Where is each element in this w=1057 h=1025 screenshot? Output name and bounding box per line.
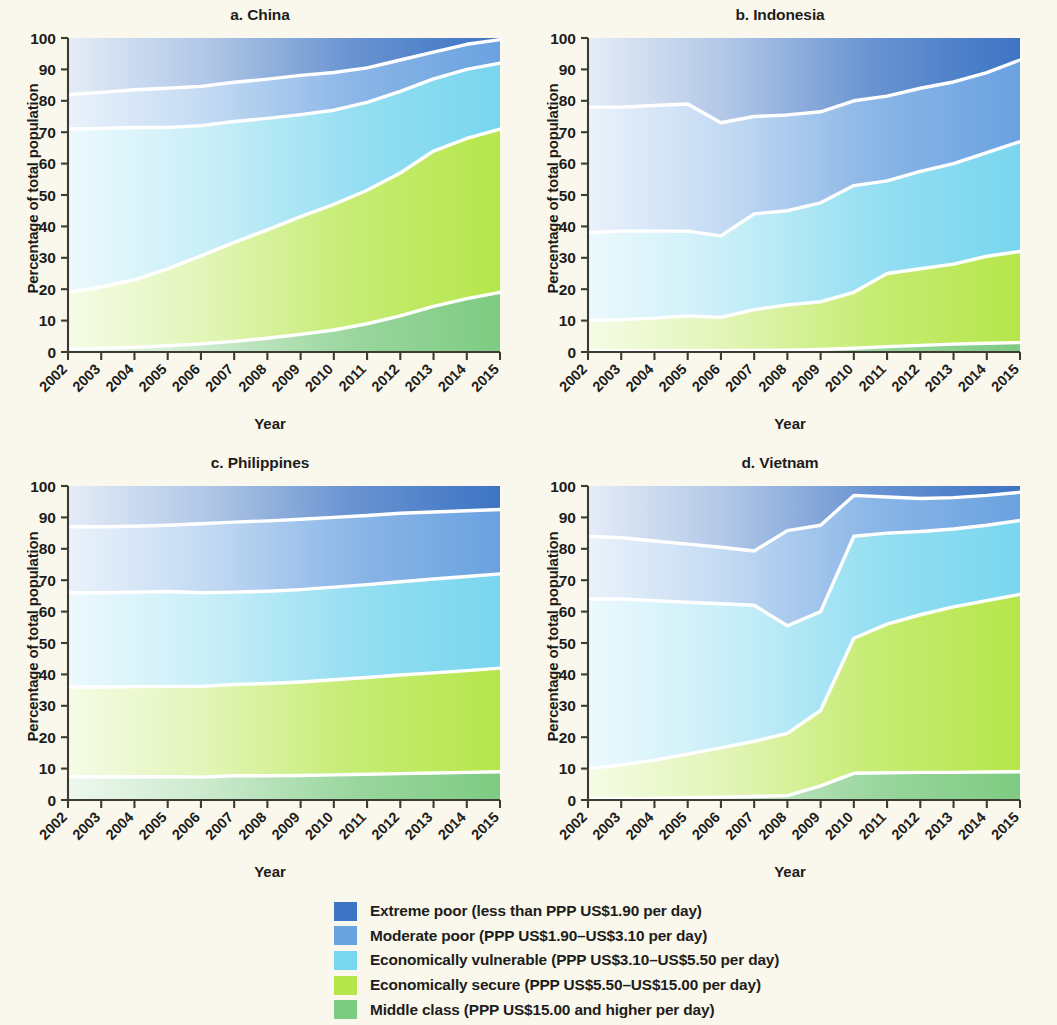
y-tick-label: 60 bbox=[559, 155, 576, 172]
area-chart-indonesia: 0102030405060708090100200220032004200520… bbox=[520, 30, 1040, 430]
y-tick-label: 90 bbox=[559, 61, 576, 78]
y-tick-label: 90 bbox=[559, 509, 576, 526]
x-tick-label: 2015 bbox=[468, 809, 502, 843]
x-tick-label: 2003 bbox=[69, 809, 103, 843]
x-tick-label: 2005 bbox=[136, 361, 170, 395]
legend-item-middle-class: Middle class (PPP US$15.00 and higher pe… bbox=[334, 997, 1034, 1022]
x-tick-label: 2002 bbox=[36, 361, 70, 395]
legend-swatch-economically-vulnerable bbox=[334, 951, 357, 970]
legend-swatch-moderate-poor bbox=[334, 926, 357, 945]
legend-swatch-extreme-poor bbox=[334, 902, 357, 921]
x-tick-label: 2015 bbox=[988, 361, 1022, 395]
y-tick-label: 0 bbox=[47, 344, 56, 361]
x-tick-label: 2003 bbox=[589, 361, 623, 395]
y-tick-label: 20 bbox=[39, 729, 56, 746]
x-tick-label: 2006 bbox=[169, 809, 203, 843]
x-tick-label: 2010 bbox=[822, 809, 856, 843]
legend-swatch-economically-secure bbox=[334, 976, 357, 995]
x-tick-label: 2012 bbox=[888, 361, 922, 395]
x-axis-label-indonesia: Year bbox=[580, 415, 1000, 432]
y-tick-label: 70 bbox=[559, 124, 576, 141]
plot-area-philippines: Percentage of total population 010203040… bbox=[0, 478, 520, 878]
x-tick-label: 2006 bbox=[689, 809, 723, 843]
y-tick-label: 10 bbox=[559, 760, 576, 777]
x-tick-label: 2009 bbox=[789, 361, 823, 395]
x-tick-label: 2010 bbox=[822, 361, 856, 395]
x-tick-label: 2013 bbox=[922, 809, 956, 843]
y-tick-label: 20 bbox=[39, 281, 56, 298]
panel-indonesia: b. Indonesia Percentage of total populat… bbox=[520, 0, 1040, 445]
x-tick-label: 2011 bbox=[856, 809, 890, 843]
y-tick-label: 50 bbox=[39, 187, 56, 204]
x-tick-label: 2009 bbox=[269, 809, 303, 843]
x-tick-label: 2011 bbox=[336, 361, 370, 395]
x-tick-label: 2008 bbox=[235, 809, 269, 843]
x-tick-label: 2008 bbox=[755, 361, 789, 395]
y-tick-label: 60 bbox=[39, 155, 56, 172]
x-tick-label: 2004 bbox=[622, 809, 656, 843]
plot-area-indonesia: Percentage of total population 010203040… bbox=[520, 30, 1040, 430]
legend-label-middle-class: Middle class (PPP US$15.00 and higher pe… bbox=[370, 1001, 714, 1019]
x-tick-label: 2013 bbox=[402, 809, 436, 843]
y-tick-label: 80 bbox=[39, 540, 56, 557]
y-tick-label: 10 bbox=[39, 312, 56, 329]
y-tick-label: 20 bbox=[559, 729, 576, 746]
x-tick-label: 2011 bbox=[336, 809, 370, 843]
legend-item-extreme-poor: Extreme poor (less than PPP US$1.90 per … bbox=[334, 899, 1034, 924]
x-tick-label: 2008 bbox=[235, 361, 269, 395]
x-tick-label: 2012 bbox=[368, 809, 402, 843]
x-tick-label: 2010 bbox=[302, 361, 336, 395]
x-tick-label: 2006 bbox=[169, 361, 203, 395]
legend-item-moderate-poor: Moderate poor (PPP US$1.90–US$3.10 per d… bbox=[334, 924, 1034, 949]
x-tick-label: 2002 bbox=[36, 809, 70, 843]
x-tick-label: 2010 bbox=[302, 809, 336, 843]
x-tick-label: 2006 bbox=[689, 361, 723, 395]
area-chart-vietnam: 0102030405060708090100200220032004200520… bbox=[520, 478, 1040, 878]
y-tick-label: 50 bbox=[559, 635, 576, 652]
y-tick-label: 40 bbox=[39, 666, 56, 683]
x-tick-label: 2014 bbox=[955, 809, 989, 843]
panel-china: a. China Percentage of total population … bbox=[0, 0, 520, 445]
x-tick-label: 2005 bbox=[656, 361, 690, 395]
x-tick-label: 2014 bbox=[435, 361, 469, 395]
panel-title-china: a. China bbox=[0, 6, 520, 24]
x-tick-label: 2005 bbox=[136, 809, 170, 843]
y-tick-label: 50 bbox=[559, 187, 576, 204]
x-tick-label: 2009 bbox=[789, 809, 823, 843]
panel-vietnam: d. Vietnam Percentage of total populatio… bbox=[520, 448, 1040, 893]
y-axis-label-vietnam: Percentage of total population bbox=[544, 487, 561, 787]
y-axis-label-china: Percentage of total population bbox=[24, 39, 41, 339]
x-tick-label: 2007 bbox=[722, 361, 756, 395]
y-tick-label: 70 bbox=[559, 572, 576, 589]
plot-area-china: Percentage of total population 010203040… bbox=[0, 30, 520, 430]
chart-legend: Extreme poor (less than PPP US$1.90 per … bbox=[334, 899, 1034, 1022]
x-tick-label: 2004 bbox=[102, 361, 136, 395]
legend-swatch-middle-class bbox=[334, 1000, 357, 1019]
y-tick-label: 30 bbox=[559, 697, 576, 714]
x-axis-label-china: Year bbox=[60, 415, 480, 432]
y-axis-label-indonesia: Percentage of total population bbox=[544, 39, 561, 339]
panel-title-philippines: c. Philippines bbox=[0, 454, 520, 472]
y-tick-label: 40 bbox=[39, 218, 56, 235]
x-tick-label: 2007 bbox=[722, 809, 756, 843]
x-tick-label: 2015 bbox=[988, 809, 1022, 843]
y-tick-label: 0 bbox=[567, 792, 576, 809]
legend-item-economically-secure: Economically secure (PPP US$5.50–US$15.0… bbox=[334, 973, 1034, 998]
x-tick-label: 2012 bbox=[888, 809, 922, 843]
y-tick-label: 60 bbox=[559, 603, 576, 620]
x-tick-label: 2004 bbox=[622, 361, 656, 395]
y-axis-label-philippines: Percentage of total population bbox=[24, 487, 41, 787]
x-tick-label: 2007 bbox=[202, 361, 236, 395]
legend-label-economically-vulnerable: Economically vulnerable (PPP US$3.10–US$… bbox=[370, 951, 779, 969]
legend-label-moderate-poor: Moderate poor (PPP US$1.90–US$3.10 per d… bbox=[370, 927, 707, 945]
area-chart-china: 0102030405060708090100200220032004200520… bbox=[0, 30, 520, 430]
y-tick-label: 10 bbox=[559, 312, 576, 329]
y-tick-label: 90 bbox=[39, 509, 56, 526]
x-tick-label: 2003 bbox=[69, 361, 103, 395]
x-tick-label: 2015 bbox=[468, 361, 502, 395]
y-tick-label: 30 bbox=[559, 249, 576, 266]
y-tick-label: 50 bbox=[39, 635, 56, 652]
x-tick-label: 2002 bbox=[556, 809, 590, 843]
y-tick-label: 90 bbox=[39, 61, 56, 78]
x-tick-label: 2005 bbox=[656, 809, 690, 843]
